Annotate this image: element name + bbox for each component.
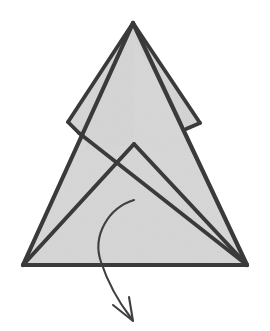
origami-diagram-root: Origami folding step diagram (0, 0, 270, 331)
origami-figure (0, 0, 270, 331)
